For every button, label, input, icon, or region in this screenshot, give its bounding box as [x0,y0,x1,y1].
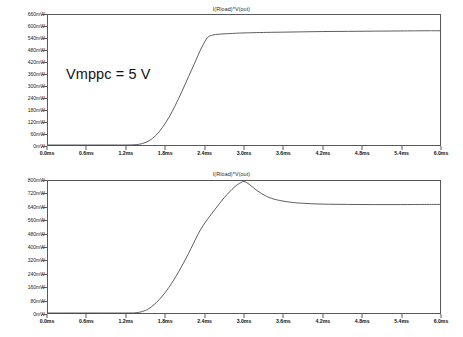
x-tick-label: 2.4ms [197,318,212,324]
x-tick-label: 4.2ms [315,150,330,156]
x-axis-top: 0.0ms0.6ms1.2ms1.8ms2.4ms3.0ms3.6ms4.2ms… [0,150,463,162]
plot-frame-bottom [47,180,441,314]
chart-panel-top: I(Rload)*V(out) 0mW60mW120mW180mW240mW30… [0,0,463,168]
x-tick-label: 4.8ms [355,318,370,324]
x-tick-label: 0.6ms [79,318,94,324]
x-tick-label: 2.4ms [197,150,212,156]
x-tick-label: 3.0ms [237,150,252,156]
x-tick-label: 4.8ms [355,150,370,156]
x-tick-label: 3.6ms [276,150,291,156]
x-tick-label: 1.2ms [118,150,133,156]
plot-title-top: I(Rload)*V(out) [0,6,463,12]
data-trace-bottom [48,181,440,313]
x-tick-label: 5.4ms [394,318,409,324]
x-tick-label: 0.0ms [40,318,55,324]
annotation-vmppc-top: Vmppc = 5 V [66,66,151,82]
x-tick-label: 6.0ms [434,318,449,324]
x-tick-label: 1.8ms [158,150,173,156]
x-tick-label: 5.4ms [394,150,409,156]
plot-title-bottom: I(Rload)*V(out) [0,171,463,177]
x-tick-label: 4.2ms [315,318,330,324]
x-tick-label: 1.8ms [158,318,173,324]
x-axis-bottom: 0.0ms0.6ms1.2ms1.8ms2.4ms3.0ms3.6ms4.2ms… [0,318,463,330]
x-tick-label: 6.0ms [434,150,449,156]
x-tick-label: 3.6ms [276,318,291,324]
x-tick-label: 0.6ms [79,150,94,156]
y-axis-bottom: 0mW80mW160mW240mW320mW400mW480mW560mW640… [0,180,45,314]
chart-panel-bottom: I(Rload)*V(out) 0mW80mW160mW240mW320mW40… [0,168,463,337]
x-tick-label: 3.0ms [237,318,252,324]
x-tick-label: 1.2ms [118,318,133,324]
y-axis-top: 0mW60mW120mW180mW240mW300mW360mW420mW480… [0,14,45,146]
x-tick-label: 0.0ms [40,150,55,156]
data-trace-top [48,31,440,145]
plot-area-bottom [48,181,440,313]
